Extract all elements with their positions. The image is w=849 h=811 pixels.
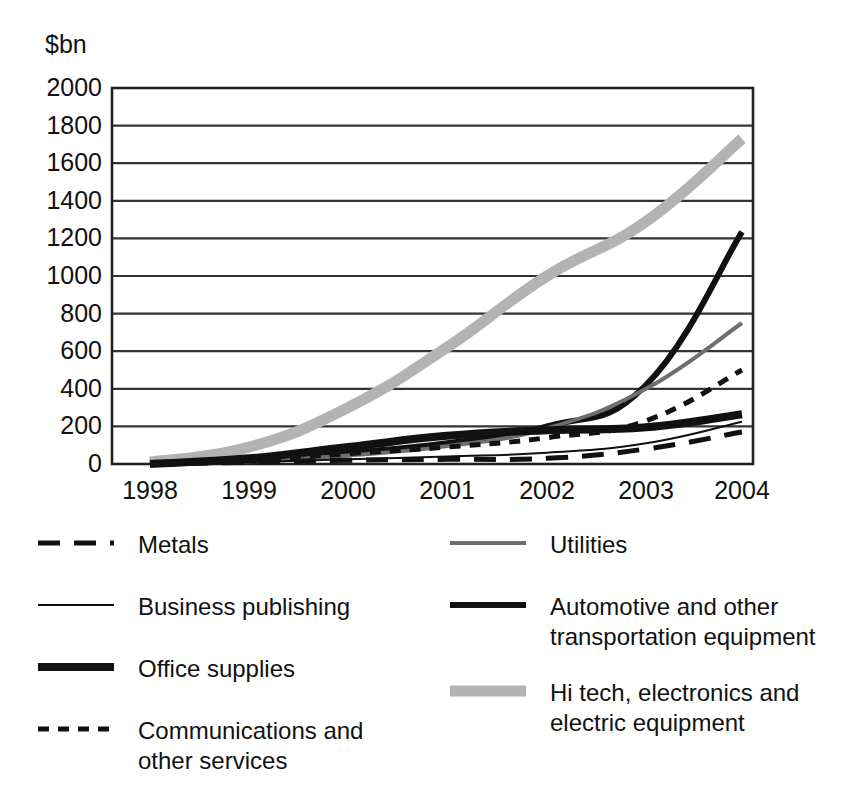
legend-item-metals[interactable]: Metals (36, 530, 209, 560)
legend-item-business-publishing[interactable]: Business publishing (36, 592, 350, 622)
x-axis-tick-labels: 1998199920002001200220032004 (0, 476, 849, 510)
x-axis-tick-2001: 2001 (419, 476, 475, 504)
legend-swatch-icon (36, 716, 116, 742)
legend-swatch-icon (448, 592, 528, 618)
legend-swatch-icon (448, 530, 528, 556)
legend-swatch-icon (36, 530, 116, 556)
x-axis-tick-1998: 1998 (122, 476, 178, 504)
x-axis-tick-2003: 2003 (618, 476, 674, 504)
legend-item-office-supplies[interactable]: Office supplies (36, 654, 295, 684)
x-axis-tick-2000: 2000 (320, 476, 376, 504)
legend-label: Automotive and other transportation equi… (550, 592, 816, 652)
x-axis-tick-1999: 1999 (221, 476, 277, 504)
legend-swatch-icon (36, 592, 116, 618)
chart-container: $bn 200018001600140012001000800600400200… (0, 0, 849, 811)
legend-swatch-icon (448, 678, 528, 704)
legend-label: Hi tech, electronics and electric equipm… (550, 678, 799, 738)
x-axis-tick-2004: 2004 (714, 476, 770, 504)
legend-label: Utilities (550, 530, 627, 560)
legend-label: Communications and other services (138, 716, 363, 776)
x-axis-tick-2002: 2002 (519, 476, 575, 504)
legend-label: Business publishing (138, 592, 350, 622)
legend-item-hi-tech-electronics-and-electric-equipment[interactable]: Hi tech, electronics and electric equipm… (448, 678, 799, 738)
legend-label: Metals (138, 530, 209, 560)
legend-label: Office supplies (138, 654, 295, 684)
data-series-group (150, 139, 742, 464)
chart-legend: MetalsBusiness publishingOffice supplies… (36, 520, 826, 785)
series-line-6 (150, 139, 742, 462)
legend-swatch-icon (36, 654, 116, 680)
legend-item-utilities[interactable]: Utilities (448, 530, 627, 560)
legend-item-automotive-and-other-transportation-equipment[interactable]: Automotive and other transportation equi… (448, 592, 816, 652)
legend-item-communications-and-other-services[interactable]: Communications and other services (36, 716, 363, 776)
